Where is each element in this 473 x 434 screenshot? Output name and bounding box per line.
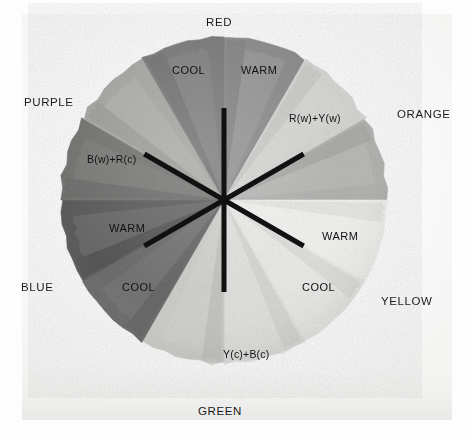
hue-label-GREEN: GREEN [198,405,242,417]
mix-label-purple-mix: B(w)+R(c) [87,153,136,165]
hue-label-YELLOW: YELLOW [381,295,433,307]
segment-label-red-cool: COOL [172,64,205,76]
segment-label-yellow-warm: WARM [322,230,358,242]
figure-canvas: REDORANGEYELLOWGREENBLUEPURPLE COOLWARMW… [0,0,473,434]
segment-label-blue-warm: WARM [109,222,145,234]
hue-label-BLUE: BLUE [21,281,53,293]
mix-label-orange-mix: R(w)+Y(w) [289,112,341,124]
color-wheel-svg [0,0,473,434]
segment-label-yellow-cool: COOL [302,281,335,293]
segment-label-red-warm: WARM [241,64,277,76]
color-wheel [0,0,473,434]
hue-label-RED: RED [206,16,232,28]
segment-label-blue-cool: COOL [122,281,155,293]
hue-label-ORANGE: ORANGE [397,108,450,120]
hue-label-PURPLE: PURPLE [24,96,74,108]
mix-label-green-mix: Y(c)+B(c) [223,348,269,360]
